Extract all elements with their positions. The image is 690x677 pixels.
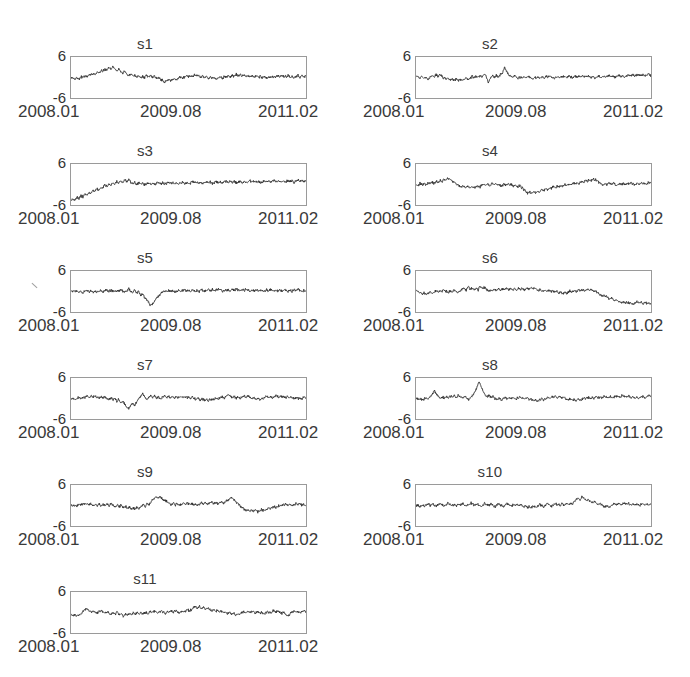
plot-area-s2 xyxy=(415,56,652,99)
subplot-s1: s16-62008.012009.082011.02 xyxy=(0,30,345,137)
subplot-s2: s26-62008.012009.082011.02 xyxy=(345,30,690,137)
x-axis-tick-1: 2009.08 xyxy=(140,210,201,227)
y-axis-tick-top: 6 xyxy=(34,583,66,598)
plot-area-s7 xyxy=(70,377,307,420)
x-axis-tick-2: 2011.02 xyxy=(258,424,318,441)
x-axis-tick-2: 2011.02 xyxy=(603,103,663,120)
y-axis-tick-top: 6 xyxy=(379,476,411,491)
x-axis-tick-0: 2008.01 xyxy=(363,210,424,227)
plot-area-s3 xyxy=(70,163,307,206)
plot-area-s5 xyxy=(70,270,307,313)
x-axis-tick-1: 2009.08 xyxy=(140,103,201,120)
subplot-s10: s106-62008.012009.082011.02 xyxy=(345,458,690,565)
x-axis-tick-0: 2008.01 xyxy=(363,424,424,441)
subplot-s4: s46-62008.012009.082011.02 xyxy=(345,137,690,244)
y-axis-tick-top: 6 xyxy=(34,48,66,63)
x-axis-tick-1: 2009.08 xyxy=(485,210,546,227)
x-axis-tick-1: 2009.08 xyxy=(140,531,201,548)
x-axis-tick-2: 2011.02 xyxy=(603,317,663,334)
x-axis-tick-1: 2009.08 xyxy=(485,531,546,548)
plot-area-s11 xyxy=(70,591,307,634)
y-axis-tick-top: 6 xyxy=(34,262,66,277)
subplot-s3: s36-62008.012009.082011.02 xyxy=(0,137,345,244)
y-axis-tick-top: 6 xyxy=(34,155,66,170)
y-axis-tick-top: 6 xyxy=(379,48,411,63)
x-axis-tick-2: 2011.02 xyxy=(258,638,318,655)
x-axis-tick-1: 2009.08 xyxy=(140,424,201,441)
x-axis-tick-2: 2011.02 xyxy=(258,103,318,120)
plot-area-s4 xyxy=(415,163,652,206)
y-axis-tick-top: 6 xyxy=(379,155,411,170)
subplot-s5: s56-62008.012009.082011.02 xyxy=(0,244,345,351)
x-axis-tick-0: 2008.01 xyxy=(18,638,79,655)
x-axis-tick-2: 2011.02 xyxy=(258,210,318,227)
x-axis-tick-1: 2009.08 xyxy=(485,317,546,334)
x-axis-tick-1: 2009.08 xyxy=(485,424,546,441)
x-axis-tick-2: 2011.02 xyxy=(603,531,663,548)
x-axis-tick-0: 2008.01 xyxy=(18,424,79,441)
y-axis-tick-top: 6 xyxy=(379,369,411,384)
x-axis-tick-0: 2008.01 xyxy=(18,210,79,227)
x-axis-tick-2: 2011.02 xyxy=(603,424,663,441)
plot-area-s9 xyxy=(70,484,307,527)
x-axis-tick-1: 2009.08 xyxy=(140,638,201,655)
y-axis-tick-top: 6 xyxy=(34,476,66,491)
x-axis-tick-0: 2008.01 xyxy=(18,317,79,334)
plot-area-s1 xyxy=(70,56,307,99)
x-axis-tick-0: 2008.01 xyxy=(18,103,79,120)
x-axis-tick-0: 2008.01 xyxy=(363,103,424,120)
y-axis-tick-top: 6 xyxy=(379,262,411,277)
plot-area-s8 xyxy=(415,377,652,420)
subplot-s11: s116-62008.012009.082011.02 xyxy=(0,565,345,672)
x-axis-tick-0: 2008.01 xyxy=(18,531,79,548)
subplot-s7: s76-62008.012009.082011.02 xyxy=(0,351,345,458)
subplot-s8: s86-62008.012009.082011.02 xyxy=(345,351,690,458)
plot-area-s6 xyxy=(415,270,652,313)
x-axis-tick-2: 2011.02 xyxy=(603,210,663,227)
multi-panel-timeseries-figure: s16-62008.012009.082011.02s26-62008.0120… xyxy=(0,0,690,677)
subplot-s6: s66-62008.012009.082011.02 xyxy=(345,244,690,351)
x-axis-tick-0: 2008.01 xyxy=(363,531,424,548)
x-axis-tick-1: 2009.08 xyxy=(485,103,546,120)
x-axis-tick-1: 2009.08 xyxy=(140,317,201,334)
y-axis-tick-top: 6 xyxy=(34,369,66,384)
x-axis-tick-2: 2011.02 xyxy=(258,317,318,334)
x-axis-tick-2: 2011.02 xyxy=(258,531,318,548)
subplot-s9: s96-62008.012009.082011.02 xyxy=(0,458,345,565)
x-axis-tick-0: 2008.01 xyxy=(363,317,424,334)
plot-area-s10 xyxy=(415,484,652,527)
